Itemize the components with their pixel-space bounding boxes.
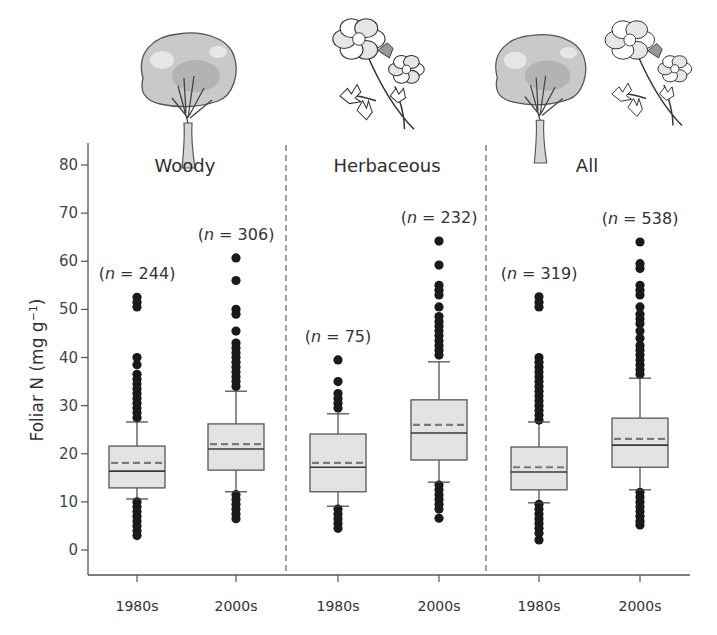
group-title-all: All <box>576 155 598 176</box>
flower-icon <box>333 19 424 130</box>
y-tick-label: 30 <box>59 397 78 415</box>
sample-size-label: (n = 244) <box>99 264 176 283</box>
outlier-point <box>434 302 443 311</box>
x-tick-label: 2000s <box>215 598 258 614</box>
outlier-point <box>635 520 644 529</box>
axes <box>81 143 690 582</box>
outlier-point <box>434 514 443 523</box>
tree-icon <box>496 35 586 163</box>
flower-icon <box>605 21 692 126</box>
outlier-point <box>534 535 543 544</box>
x-tick-label: 1980s <box>317 598 360 614</box>
box-herbaceous-2000s <box>411 236 467 522</box>
outlier-point <box>333 403 342 412</box>
outlier-point <box>231 310 240 319</box>
sample-size-label: (n = 306) <box>198 224 275 243</box>
x-tick-label: 1980s <box>518 598 561 614</box>
iqr-box <box>109 446 165 488</box>
outlier-point <box>534 415 543 424</box>
iqr-box <box>411 400 467 460</box>
outlier-point <box>635 290 644 299</box>
y-tick-label: 20 <box>59 445 78 463</box>
y-axis-label: Foliar N (mg g−1) <box>27 299 48 442</box>
x-tick-label: 1980s <box>116 598 159 614</box>
box-all-2000s <box>612 237 668 529</box>
boxes <box>109 236 668 544</box>
outlier-point <box>434 350 443 359</box>
outlier-point <box>132 413 141 422</box>
outlier-point <box>333 524 342 533</box>
outlier-point <box>132 531 141 540</box>
box-herbaceous-1980s <box>310 355 366 533</box>
y-tick-label: 0 <box>68 541 78 559</box>
y-tick-label: 80 <box>59 156 78 174</box>
y-tick-label: 10 <box>59 493 78 511</box>
y-tick-label: 70 <box>59 204 78 222</box>
outlier-point <box>434 290 443 299</box>
plant-illustrations <box>141 19 691 168</box>
sample-size-label: (n = 319) <box>501 263 578 282</box>
group-title-herbaceous: Herbaceous <box>333 155 440 176</box>
outlier-point <box>434 261 443 270</box>
outlier-point <box>333 377 342 386</box>
iqr-box <box>208 424 264 470</box>
y-tick-label: 60 <box>59 252 78 270</box>
outlier-point <box>635 237 644 246</box>
sample-size-label: (n = 232) <box>401 208 478 227</box>
outlier-point <box>231 514 240 523</box>
outlier-point <box>333 355 342 364</box>
sample-size-label: (n = 538) <box>602 209 679 228</box>
outlier-point <box>434 236 443 245</box>
x-tick-label: 2000s <box>619 598 662 614</box>
outlier-point <box>534 302 543 311</box>
group-title-woody: Woody <box>155 155 216 176</box>
y-tick-label: 40 <box>59 349 78 367</box>
outlier-point <box>434 504 443 513</box>
outlier-point <box>231 276 240 285</box>
iqr-box <box>612 418 668 467</box>
x-tick-label: 2000s <box>418 598 461 614</box>
boxplot-chart <box>0 0 717 635</box>
outlier-point <box>132 302 141 311</box>
box-all-1980s <box>511 292 567 544</box>
outlier-point <box>231 382 240 391</box>
sample-size-label: (n = 75) <box>305 326 372 345</box>
y-tick-label: 50 <box>59 300 78 318</box>
outlier-point <box>635 264 644 273</box>
outlier-point <box>132 360 141 369</box>
box-woody-2000s <box>208 253 264 523</box>
box-woody-1980s <box>109 293 165 540</box>
outlier-point <box>231 326 240 335</box>
outlier-point <box>231 253 240 262</box>
outlier-point <box>635 370 644 379</box>
iqr-box <box>511 447 567 490</box>
tree-icon <box>141 33 236 168</box>
